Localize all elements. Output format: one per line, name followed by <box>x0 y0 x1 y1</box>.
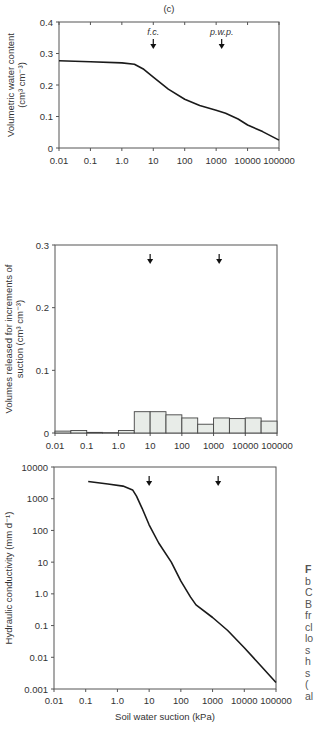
y-tick-label: 0.2 <box>36 302 49 313</box>
x-tick-label: 1000 <box>202 695 223 706</box>
down-arrow-head-icon <box>216 259 222 264</box>
y-tick-label: 0 <box>44 428 49 439</box>
annotation-label: p.w.p. <box>209 27 234 37</box>
y-tick-label: 0 <box>48 143 53 154</box>
y-tick-label: 0.1 <box>40 111 53 122</box>
caption-text: h <box>305 655 311 667</box>
y-axis-label: (cm³ cm⁻³) <box>16 62 27 108</box>
histogram-bar <box>118 430 134 433</box>
histogram-bar <box>198 424 214 433</box>
caption-text: C <box>305 586 313 598</box>
y-tick-label: 0.01 <box>30 652 49 663</box>
y-tick-label: 100 <box>32 525 48 536</box>
hydraulic-conductivity-chart: 0.010.11.0101001000100001000000.0010.010… <box>3 462 292 723</box>
histogram-bar <box>150 412 166 433</box>
y-tick-label: 10 <box>37 557 48 568</box>
histogram-bar <box>261 421 277 433</box>
y-tick-label: 10000 <box>22 462 48 473</box>
y-tick-label: 0.1 <box>36 365 49 376</box>
panel-label: (c) <box>163 3 174 14</box>
y-tick-label: 0.2 <box>40 80 53 91</box>
x-tick-label: 10 <box>148 155 159 166</box>
plot-frame <box>59 22 279 148</box>
data-line <box>88 482 276 683</box>
x-tick-label: 100 <box>174 440 190 451</box>
caption-text: lo <box>305 632 313 644</box>
x-tick-label: 100000 <box>263 155 295 166</box>
histogram-bar <box>229 419 245 433</box>
y-axis-label: Volumes released for increments of <box>3 264 14 413</box>
x-tick-label: 1.0 <box>111 695 124 706</box>
x-tick-label: 100000 <box>261 440 293 451</box>
down-arrow-head-icon <box>150 44 156 49</box>
x-tick-label: 0.1 <box>79 695 92 706</box>
y-tick-label: 1000 <box>27 493 48 504</box>
histogram-bar <box>182 418 198 433</box>
x-tick-label: 10 <box>144 695 155 706</box>
y-axis-label: suction (cm³ cm⁻³) <box>14 300 25 378</box>
caption-text: B <box>305 598 312 610</box>
histogram-bar <box>87 432 103 433</box>
x-tick-label: 10000 <box>234 155 260 166</box>
x-tick-label: 0.01 <box>50 155 69 166</box>
y-tick-label: 0.3 <box>40 48 53 59</box>
plot-frame <box>54 467 276 689</box>
histogram-bar <box>245 418 261 433</box>
caption-text: s <box>305 644 310 656</box>
down-arrow-head-icon <box>147 259 153 264</box>
data-line <box>59 61 279 140</box>
caption-text: cl <box>305 621 313 633</box>
y-tick-label: 0.1 <box>35 620 48 631</box>
x-tick-label: 1.0 <box>112 440 125 451</box>
histogram-bar <box>166 415 182 433</box>
caption-text: ( <box>305 678 309 690</box>
caption-text: fr <box>305 609 312 621</box>
annotation-label: f.c. <box>147 27 159 37</box>
x-tick-label: 1.0 <box>115 155 128 166</box>
x-tick-label: 0.1 <box>80 440 93 451</box>
caption-text: al <box>305 690 313 702</box>
y-tick-label: 0.3 <box>36 240 49 251</box>
y-axis-label: Volumetric water content <box>5 33 16 137</box>
x-tick-label: 0.1 <box>84 155 97 166</box>
y-axis-label: Hydraulic conductivity (mm d⁻¹) <box>3 512 14 645</box>
caption-text: F <box>305 563 312 575</box>
x-tick-label: 10000 <box>232 440 258 451</box>
y-tick-label: 1.0 <box>35 588 48 599</box>
x-tick-label: 1000 <box>203 440 224 451</box>
water-content-chart: (c)0.010.11.01010010001000010000000.10.2… <box>5 3 295 166</box>
down-arrow-head-icon <box>215 481 221 486</box>
x-axis-label: Soil water suction (kPa) <box>115 711 215 722</box>
figure-canvas: (c)0.010.11.01010010001000010000000.10.2… <box>0 0 317 732</box>
x-tick-label: 0.01 <box>45 695 64 706</box>
x-tick-label: 10 <box>145 440 156 451</box>
histogram-bar <box>214 418 230 433</box>
x-tick-label: 0.01 <box>46 440 65 451</box>
caption-text: s <box>305 667 310 679</box>
histogram-bar <box>71 430 87 433</box>
y-tick-label: 0.4 <box>40 17 53 28</box>
caption-text: b <box>305 575 311 587</box>
x-tick-label: 1000 <box>206 155 227 166</box>
figure-caption-fragment: FbCBfrclloshs(al <box>305 563 313 702</box>
histogram-bar <box>55 431 71 433</box>
volumes-released-chart: 0.010.11.01010010001000010000000.10.20.3… <box>3 240 293 452</box>
down-arrow-head-icon <box>219 44 225 49</box>
histogram-bar <box>134 412 150 433</box>
x-tick-label: 100 <box>173 695 189 706</box>
x-tick-label: 100 <box>177 155 193 166</box>
down-arrow-head-icon <box>146 481 152 486</box>
plot-frame <box>55 245 277 433</box>
x-tick-label: 100000 <box>260 695 292 706</box>
x-tick-label: 10000 <box>231 695 257 706</box>
y-tick-label: 0.001 <box>24 684 48 695</box>
